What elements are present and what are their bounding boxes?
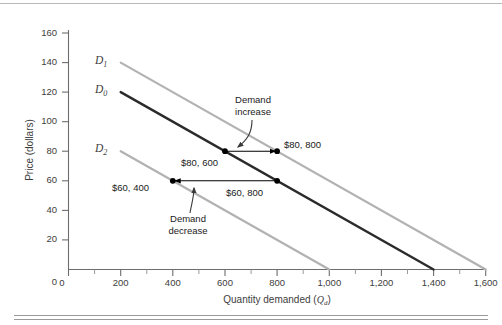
- x-tick-label-200: 200: [113, 277, 129, 288]
- point-label-60-400: $60, 400: [112, 182, 149, 193]
- x-axis-ticks: [69, 270, 486, 277]
- data-point-60-800: [274, 178, 280, 184]
- x-tick-label-600: 600: [217, 277, 233, 288]
- curve-label-d2: D2: [94, 142, 107, 157]
- x-axis-title-text: Quantity demanded (: [223, 294, 317, 305]
- curve-label-d1: D1: [94, 54, 107, 69]
- bottom-divider-rule-lower: [14, 319, 488, 320]
- data-point-60-400: [170, 178, 176, 184]
- x-tick-label-0: 0: [59, 277, 64, 288]
- chart-figure: 160 140 120 100 80 60 40 20 0: [0, 0, 502, 325]
- y-tick-label-100: 100: [41, 115, 57, 126]
- y-axis-tick-labels: 160 140 120 100 80 60 40 20 0: [41, 27, 57, 287]
- y-tick-label-0: 0: [52, 276, 57, 287]
- demand-curve-d2: [121, 151, 330, 269]
- annotation-decrease-line2: decrease: [168, 225, 207, 236]
- x-axis-tick-labels: 0 200 400 600 800 1,000 1,200 1,400 1,60…: [59, 277, 497, 288]
- x-tick-label-400: 400: [165, 277, 181, 288]
- annotation-decrease-line1: Demand: [170, 213, 206, 224]
- y-tick-label-120: 120: [41, 86, 57, 97]
- bottom-divider-rule-upper: [14, 315, 488, 316]
- point-label-80-800: $80, 800: [284, 139, 321, 150]
- x-tick-label-1000: 1,000: [317, 277, 341, 288]
- point-label-80-600: $80, 600: [181, 157, 218, 168]
- demand-shift-chart: 160 140 120 100 80 60 40 20 0: [0, 0, 502, 325]
- demand-curve-d1: [121, 63, 486, 270]
- annotation-demand-decrease: Demand decrease: [168, 188, 207, 236]
- data-point-80-600: [222, 148, 228, 154]
- y-tick-label-20: 20: [46, 233, 57, 244]
- y-tick-label-40: 40: [46, 204, 57, 215]
- curve-label-d0: D0: [94, 83, 107, 98]
- data-point-80-800: [274, 148, 280, 154]
- x-tick-label-1400: 1,400: [422, 277, 446, 288]
- annotation-increase-line1: Demand: [235, 94, 271, 105]
- y-tick-label-80: 80: [46, 145, 57, 156]
- y-tick-label-140: 140: [41, 56, 57, 67]
- annotation-demand-increase: Demand increase: [235, 94, 271, 147]
- x-tick-label-800: 800: [269, 277, 285, 288]
- x-tick-label-1600: 1,600: [474, 277, 498, 288]
- annotation-increase-line2: increase: [235, 106, 271, 117]
- x-axis-title: Quantity demanded (Qd): [223, 294, 330, 307]
- y-axis-title: Price (dollars): [24, 119, 35, 181]
- y-tick-label-160: 160: [41, 27, 57, 38]
- x-tick-label-1200: 1,200: [370, 277, 394, 288]
- y-tick-label-60: 60: [46, 174, 57, 185]
- point-label-60-800: $60, 800: [226, 187, 263, 198]
- y-axis-ticks: [62, 33, 69, 240]
